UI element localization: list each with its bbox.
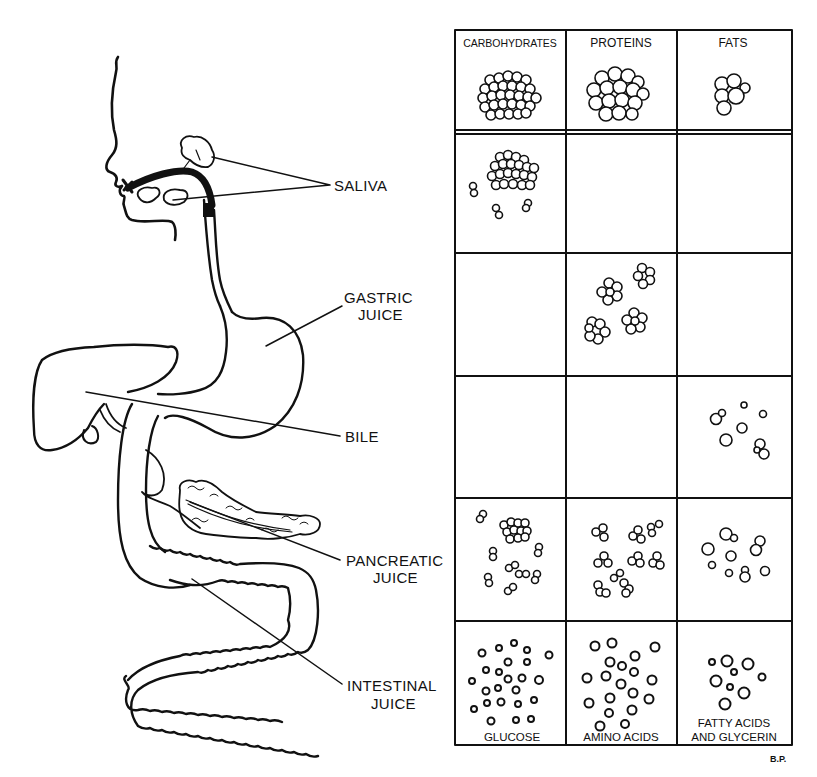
label-intestinal-1: INTESTINAL <box>347 677 437 694</box>
label-fatty-acids: FATTY ACIDS <box>698 717 771 729</box>
carb-saliva <box>470 151 539 219</box>
glucose-molecules <box>469 640 553 725</box>
label-amino-acids: AMINO ACIDS <box>583 731 659 743</box>
protein-clump <box>587 67 649 121</box>
submandibular-gland <box>164 189 188 204</box>
anatomy-figure <box>33 57 320 757</box>
table-headers: CARBOHYDRATES PROTEINS FATS <box>463 36 747 50</box>
artist-signature: B.P. <box>770 754 786 764</box>
protein-pancreatic <box>592 521 664 598</box>
stomach <box>158 306 303 438</box>
fat-clump <box>715 74 750 115</box>
label-glucose: GLUCOSE <box>484 731 541 743</box>
header-proteins: PROTEINS <box>590 36 651 50</box>
fat-pancreatic <box>702 528 770 582</box>
amino-acid-molecules <box>583 639 660 731</box>
label-pancreatic-1: PANCREATIC <box>346 552 443 569</box>
label-gastric-2: JUICE <box>358 306 403 323</box>
sublingual-gland <box>138 187 160 202</box>
label-saliva: SALIVA <box>334 177 387 194</box>
carb-pancreatic <box>477 511 543 595</box>
bile-duct <box>100 404 126 432</box>
nutrient-table <box>455 30 792 745</box>
protein-gastric <box>585 264 655 345</box>
fatty-acid-molecules <box>709 656 766 710</box>
liver <box>33 345 177 451</box>
pancreatic-duct <box>142 450 200 528</box>
label-gastric-1: GASTRIC <box>344 289 413 306</box>
carb-clump <box>478 71 541 120</box>
header-carbohydrates: CARBOHYDRATES <box>463 37 557 49</box>
fat-bile <box>711 402 770 459</box>
molecules <box>469 67 770 731</box>
label-intestinal-2: JUICE <box>371 695 416 712</box>
small-intestine <box>124 546 318 757</box>
label-pancreatic-2: JUICE <box>373 569 418 586</box>
face-profile <box>106 57 175 240</box>
parotid-gland <box>181 136 214 167</box>
label-bile: BILE <box>345 428 379 445</box>
label-glycerin: AND GLYCERIN <box>691 731 776 743</box>
digestion-diagram: SALIVA GASTRIC JUICE BILE PANCREATIC JUI… <box>0 0 817 777</box>
gallbladder <box>83 426 98 443</box>
anatomy-labels: SALIVA GASTRIC JUICE BILE PANCREATIC JUI… <box>334 177 443 712</box>
header-fats: FATS <box>718 36 747 50</box>
